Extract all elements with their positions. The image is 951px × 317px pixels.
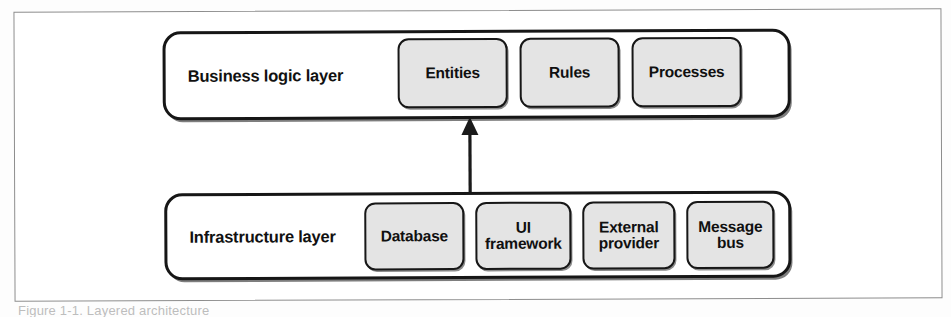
component-rules: Rules	[519, 37, 619, 107]
component-ui-framework-label: UI framework	[485, 220, 562, 252]
component-database-label: Database	[381, 228, 448, 244]
business-logic-layer-label: Business logic layer	[188, 66, 344, 86]
infrastructure-layer-label: Infrastructure layer	[189, 227, 335, 247]
component-ui-framework: UI framework	[475, 202, 571, 270]
component-processes-label: Processes	[649, 64, 725, 80]
architecture-diagram: Business logic layer Entities Rules Proc…	[0, 0, 951, 317]
dependency-arrow-icon	[452, 116, 488, 198]
figure-caption: Figure 1-1. Layered architecture	[18, 303, 438, 317]
component-external-provider-label: External provider	[599, 219, 660, 251]
component-message-bus-label: Message bus	[698, 219, 762, 251]
component-message-bus: Message bus	[686, 201, 774, 269]
component-database: Database	[364, 202, 464, 270]
component-external-provider: External provider	[582, 201, 675, 269]
scanned-page: Business logic layer Entities Rules Proc…	[0, 0, 951, 317]
component-entities: Entities	[397, 38, 507, 108]
component-processes: Processes	[631, 37, 741, 107]
component-rules-label: Rules	[549, 65, 590, 81]
component-entities-label: Entities	[425, 65, 479, 81]
